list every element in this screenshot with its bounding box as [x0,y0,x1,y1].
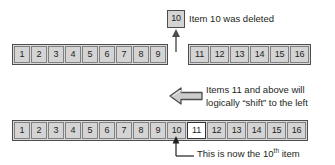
left-block-arrow-icon [170,88,202,104]
deleted-item-pointer-icon [172,29,180,52]
highlight-leader-line [173,136,194,156]
diagram-canvas: 10 Item 10 was deleted 1 2 3 4 5 6 7 8 9… [0,0,335,165]
connector-overlay [0,0,335,165]
